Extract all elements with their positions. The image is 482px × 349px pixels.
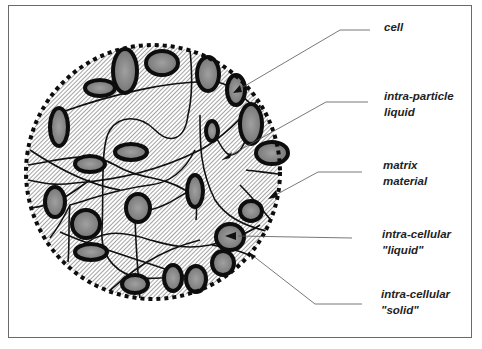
label-cell: cell	[384, 19, 403, 35]
label-line: cell	[384, 19, 403, 35]
label-line: liquid	[384, 104, 454, 120]
label-intra-cellular-liquid: intra-cellular "liquid"	[382, 226, 451, 258]
label-line: "solid"	[381, 302, 450, 318]
label-line: matrix	[383, 157, 427, 173]
label-intra-cellular-solid: intra-cellular "solid"	[381, 286, 450, 318]
label-matrix-material: matrix material	[383, 157, 427, 189]
label-line: "liquid"	[382, 242, 451, 258]
label-intra-particle-liquid: intra-particle liquid	[384, 88, 454, 120]
label-line: material	[383, 173, 427, 189]
label-line: intra-cellular	[382, 226, 451, 242]
label-line: intra-particle	[384, 88, 454, 104]
label-line: intra-cellular	[381, 286, 450, 302]
